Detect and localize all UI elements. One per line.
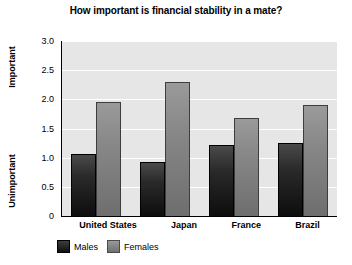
bar-males [71,154,96,216]
legend-item: Males [57,240,98,253]
x-axis-label: Brazil [295,220,320,230]
plot-area [61,41,337,217]
bar-males [140,162,165,216]
bar-females [96,102,121,216]
y-axis-tick: 0.5 [26,183,54,192]
legend-swatch-females [107,240,120,253]
y-axis-bottom-label: Unimportant [7,145,17,217]
y-axis-tick: 1.5 [26,125,54,134]
y-axis-tick: 3.0 [26,37,54,46]
legend-label: Males [74,242,98,252]
bar-chart: How important is financial stability in … [0,0,352,265]
y-axis-top-label: Important [7,39,17,95]
legend-item: Females [107,240,159,253]
y-axis-tick: 0 [26,212,54,221]
bar-females [303,105,328,216]
x-axis-label: United States [79,220,137,230]
bar-males [278,143,303,216]
x-axis-label: France [231,220,261,230]
bar-females [165,82,190,216]
bar-males [209,145,234,216]
bar-group [140,41,190,216]
legend-label: Females [124,242,159,252]
bar-females [234,118,259,216]
x-axis-label: Japan [171,220,197,230]
y-axis-tick: 2.0 [26,95,54,104]
bar-group [71,41,121,216]
chart-legend: MalesFemales [57,240,159,253]
bar-groups [62,41,337,216]
y-axis-tick: 1.0 [26,154,54,163]
y-axis-tick: 2.5 [26,66,54,75]
x-axis-labels: United StatesJapanFranceBrazil [62,220,337,230]
legend-swatch-males [57,240,70,253]
y-axis-ticks: 3.02.52.01.51.00.50 [26,0,54,265]
bar-group [278,41,328,216]
bar-group [209,41,259,216]
